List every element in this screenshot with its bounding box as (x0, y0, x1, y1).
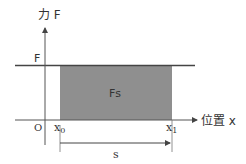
x-axis-label: 位置 x (201, 113, 236, 128)
x0-label: x0 (54, 121, 65, 135)
force-level-label: F (34, 52, 40, 65)
y-axis-label: 力 F (38, 8, 61, 22)
x1-label: x1 (166, 121, 177, 135)
origin-label: O (34, 122, 42, 133)
work-diagram: 力 F F Fs O x0 x1 位置 x s (0, 0, 246, 164)
area-label: Fs (109, 87, 121, 100)
displacement-label: s (113, 148, 119, 161)
